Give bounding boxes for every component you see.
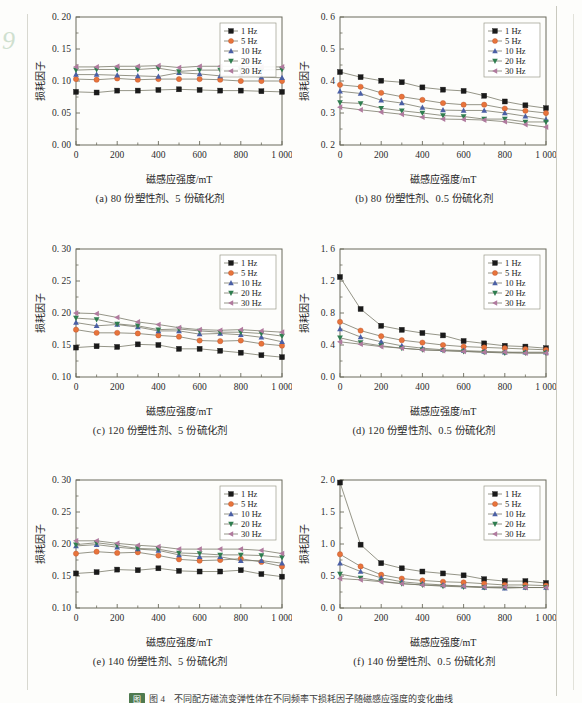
subplot-cell-b: 02004006008001 0000. 20. 30. 40. 50. 61 …: [292, 4, 556, 236]
subplot-b: 02004006008001 0000. 20. 30. 40. 50. 61 …: [292, 4, 556, 189]
subplot-caption-c: (c) 120 份塑性剂、5 份硫化剂: [28, 422, 292, 437]
svg-text:10 Hz: 10 Hz: [505, 278, 526, 288]
svg-text:800: 800: [234, 150, 249, 160]
svg-text:1. 0: 1. 0: [321, 540, 336, 550]
svg-text:磁感应强度/mT: 磁感应强度/mT: [410, 173, 477, 185]
svg-text:0: 0: [74, 613, 79, 623]
svg-text:200: 200: [374, 613, 389, 623]
svg-text:20 Hz: 20 Hz: [241, 519, 262, 529]
svg-text:30 Hz: 30 Hz: [241, 298, 262, 308]
svg-text:1. 5: 1. 5: [321, 508, 336, 518]
svg-text:0. 10: 0. 10: [52, 372, 71, 382]
svg-text:1 Hz: 1 Hz: [241, 258, 258, 268]
svg-text:0. 25: 0. 25: [52, 508, 71, 518]
svg-text:20 Hz: 20 Hz: [241, 288, 262, 298]
svg-text:0. 30: 0. 30: [52, 244, 71, 254]
svg-text:1 Hz: 1 Hz: [505, 489, 522, 499]
svg-text:0. 05: 0. 05: [52, 108, 71, 118]
svg-text:400: 400: [415, 382, 430, 392]
svg-text:10 Hz: 10 Hz: [241, 509, 262, 519]
svg-text:600: 600: [456, 613, 471, 623]
svg-text:1 000: 1 000: [271, 150, 292, 160]
svg-text:0: 0: [338, 382, 343, 392]
figure-grid: 02004006008001 0000. 000. 050. 100. 150.…: [28, 4, 556, 699]
svg-text:1 000: 1 000: [271, 613, 292, 623]
svg-text:0. 30: 0. 30: [52, 476, 71, 486]
svg-text:0. 0: 0. 0: [321, 372, 336, 382]
svg-text:磁感应强度/mT: 磁感应强度/mT: [146, 636, 213, 648]
svg-text:400: 400: [151, 382, 166, 392]
right-margin-rule-outer: [573, 14, 574, 690]
svg-text:0. 10: 0. 10: [52, 76, 71, 86]
svg-text:0. 20: 0. 20: [52, 540, 71, 550]
svg-text:5 Hz: 5 Hz: [241, 268, 258, 278]
svg-text:0. 4: 0. 4: [321, 340, 336, 350]
svg-text:1 000: 1 000: [535, 613, 556, 623]
svg-text:1 Hz: 1 Hz: [505, 258, 522, 268]
svg-text:1 000: 1 000: [535, 382, 556, 392]
svg-text:5 Hz: 5 Hz: [505, 268, 522, 278]
figure-note: 图图 4 不同配方磁流变弹性体在不同频率下损耗因子随磁感应强度的变化曲线: [0, 692, 582, 703]
svg-text:1. 2: 1. 2: [321, 276, 336, 286]
subplot-cell-c: 02004006008001 0000. 100. 150. 200. 250.…: [28, 236, 292, 468]
svg-text:损耗因子: 损耗因子: [34, 524, 46, 564]
svg-text:30 Hz: 30 Hz: [241, 66, 262, 76]
subplot-cell-a: 02004006008001 0000. 000. 050. 100. 150.…: [28, 4, 292, 236]
svg-text:20 Hz: 20 Hz: [505, 288, 526, 298]
subplot-caption-b: (b) 80 份塑性剂、0.5 份硫化剂: [292, 190, 556, 205]
svg-text:0. 8: 0. 8: [321, 308, 336, 318]
svg-text:30 Hz: 30 Hz: [505, 529, 526, 539]
svg-text:损耗因子: 损耗因子: [298, 293, 310, 333]
svg-text:0: 0: [74, 382, 79, 392]
svg-text:10 Hz: 10 Hz: [241, 278, 262, 288]
svg-text:600: 600: [456, 382, 471, 392]
svg-text:5 Hz: 5 Hz: [241, 499, 258, 509]
svg-text:0. 6: 0. 6: [321, 12, 336, 22]
svg-text:1 Hz: 1 Hz: [241, 26, 258, 36]
svg-text:800: 800: [498, 382, 513, 392]
svg-text:200: 200: [110, 382, 125, 392]
svg-text:0. 20: 0. 20: [52, 12, 71, 22]
subplot-caption-f: (f) 140 份塑性剂、0.5 份硫化剂: [292, 653, 556, 668]
svg-text:800: 800: [234, 613, 249, 623]
svg-text:400: 400: [151, 150, 166, 160]
right-margin-rule-inner: [556, 6, 557, 696]
subplot-cell-e: 02004006008001 0000. 100. 150. 200. 250.…: [28, 467, 292, 699]
svg-text:1 Hz: 1 Hz: [505, 26, 522, 36]
svg-text:磁感应强度/mT: 磁感应强度/mT: [146, 173, 213, 185]
svg-text:1 000: 1 000: [271, 382, 292, 392]
svg-text:磁感应强度/mT: 磁感应强度/mT: [410, 405, 477, 417]
svg-text:200: 200: [110, 150, 125, 160]
svg-text:30 Hz: 30 Hz: [505, 66, 526, 76]
svg-text:30 Hz: 30 Hz: [241, 529, 262, 539]
svg-text:600: 600: [192, 150, 207, 160]
svg-text:0. 15: 0. 15: [52, 44, 71, 54]
svg-text:5 Hz: 5 Hz: [505, 499, 522, 509]
figure-note-tag: 图: [129, 693, 145, 703]
svg-text:损耗因子: 损耗因子: [298, 524, 310, 564]
svg-text:0. 15: 0. 15: [52, 340, 71, 350]
svg-text:200: 200: [110, 613, 125, 623]
svg-text:10 Hz: 10 Hz: [241, 46, 262, 56]
svg-text:20 Hz: 20 Hz: [505, 519, 526, 529]
svg-text:400: 400: [415, 150, 430, 160]
svg-text:200: 200: [374, 150, 389, 160]
subplot-f: 02004006008001 0000. 00. 51. 01. 52. 01 …: [292, 467, 556, 652]
svg-text:0. 5: 0. 5: [321, 572, 336, 582]
svg-text:200: 200: [374, 382, 389, 392]
svg-text:0. 15: 0. 15: [52, 572, 71, 582]
svg-text:0. 0: 0. 0: [321, 604, 336, 614]
svg-text:30 Hz: 30 Hz: [505, 298, 526, 308]
svg-text:0. 25: 0. 25: [52, 276, 71, 286]
svg-text:800: 800: [498, 150, 513, 160]
page-number: 9: [2, 26, 15, 56]
subplot-d: 02004006008001 0000. 00. 40. 81. 21. 61 …: [292, 236, 556, 421]
subplot-caption-a: (a) 80 份塑性剂、5 份硫化剂: [28, 190, 292, 205]
svg-text:5 Hz: 5 Hz: [241, 36, 258, 46]
svg-text:2. 0: 2. 0: [321, 476, 336, 486]
subplot-e: 02004006008001 0000. 100. 150. 200. 250.…: [28, 467, 292, 652]
svg-text:0. 3: 0. 3: [321, 108, 336, 118]
subplot-a: 02004006008001 0000. 000. 050. 100. 150.…: [28, 4, 292, 189]
svg-text:800: 800: [234, 382, 249, 392]
subplot-cell-f: 02004006008001 0000. 00. 51. 01. 52. 01 …: [292, 467, 556, 699]
